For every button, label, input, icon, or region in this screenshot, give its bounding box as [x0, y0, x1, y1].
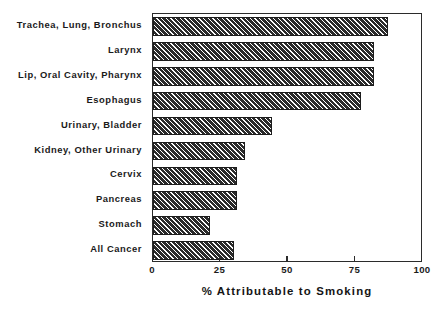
category-label: Lip, Oral Cavity, Pharynx [18, 63, 142, 88]
x-tick-label: 25 [214, 264, 225, 275]
bar [153, 42, 374, 61]
bar-row [153, 213, 421, 238]
bar-chart: Trachea, Lung, BronchusLarynxLip, Oral C… [0, 0, 443, 313]
x-tick-label: 0 [149, 264, 155, 275]
category-label: All Cancer [90, 237, 142, 262]
x-tick-label: 100 [413, 264, 430, 275]
category-label: Pancreas [96, 187, 142, 212]
bar-row [153, 89, 421, 114]
bar [153, 67, 374, 86]
bar [153, 92, 361, 111]
bar [153, 167, 237, 186]
bar-row [153, 188, 421, 213]
category-label: Urinary, Bladder [61, 113, 142, 138]
bar-row [153, 163, 421, 188]
x-axis-title: % Attributable to Smoking [152, 285, 422, 297]
category-label: Cervix [110, 162, 142, 187]
bar [153, 17, 388, 36]
bar-row [153, 139, 421, 164]
bar-row [153, 238, 421, 263]
plot-area [152, 13, 422, 262]
bar [153, 142, 245, 161]
category-label: Kidney, Other Urinary [34, 138, 142, 163]
category-label: Trachea, Lung, Bronchus [17, 13, 142, 38]
category-axis: Trachea, Lung, BronchusLarynxLip, Oral C… [0, 13, 146, 262]
bars-layer [153, 14, 421, 261]
bar [153, 216, 210, 235]
category-label: Larynx [108, 38, 142, 63]
category-label: Stomach [99, 212, 142, 237]
bar [153, 191, 237, 210]
x-tick-label: 50 [281, 264, 292, 275]
bar-row [153, 39, 421, 64]
bar-row [153, 114, 421, 139]
x-tick-label: 75 [349, 264, 360, 275]
x-axis-tick-labels: 0255075100 [0, 264, 443, 280]
bar-row [153, 14, 421, 39]
bar [153, 241, 234, 260]
bar [153, 117, 272, 136]
category-label: Esophagus [87, 88, 142, 113]
bar-row [153, 64, 421, 89]
